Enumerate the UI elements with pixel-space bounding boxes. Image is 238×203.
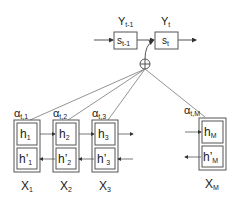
state-label-prev: st-1 xyxy=(117,35,130,47)
x-label-1: X1 xyxy=(21,179,33,193)
context-arrow xyxy=(145,41,153,59)
decoder xyxy=(94,32,196,59)
h-label-3: h3 xyxy=(98,127,109,141)
x-label-3: X3 xyxy=(99,179,111,193)
output-label-current: Yt xyxy=(161,15,170,28)
alpha-label-3: αt,3 xyxy=(92,107,106,120)
sum-icon xyxy=(140,59,150,69)
h-prime-label-m: h’M xyxy=(203,150,218,164)
h-label-2: h2 xyxy=(59,127,70,141)
alpha-label-1: αt,1 xyxy=(14,107,28,120)
x-label-2: X2 xyxy=(60,179,72,193)
alpha-label-2: αt,2 xyxy=(53,107,67,120)
attention-diagram: Yt-1 Yt st-1 st xyxy=(0,0,238,203)
h-prime-label-3: h’3 xyxy=(97,152,110,166)
x-label-m: XM xyxy=(205,177,219,191)
h-prime-label-2: h’2 xyxy=(58,152,71,166)
output-label-prev: Yt-1 xyxy=(118,15,134,28)
h-prime-label-1: h’1 xyxy=(19,152,32,166)
alpha-label-m: αt,M xyxy=(184,104,200,117)
state-label-current: st xyxy=(162,35,169,47)
h-label-1: h1 xyxy=(20,127,31,141)
h-label-m: hM xyxy=(204,125,217,139)
